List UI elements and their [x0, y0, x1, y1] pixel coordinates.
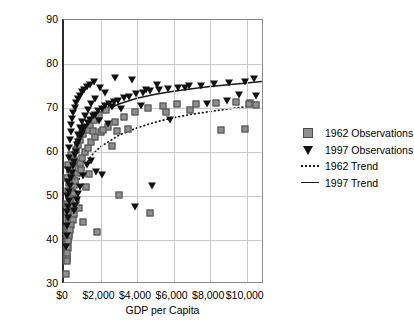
legend-solid-line-icon: [301, 182, 319, 183]
chart-legend: 1962 Observations1997 Observations1962 T…: [300, 126, 412, 192]
x-axis-ticks: $0$2,000$4,000$6,000$8,000$10,000: [0, 289, 414, 305]
data-point-1997: [67, 121, 75, 128]
legend-item-label: 1997 Trend: [325, 177, 378, 189]
data-point-1962: [64, 250, 71, 257]
x-tick-label: $2,000: [82, 289, 114, 301]
plot-area: [62, 19, 263, 283]
data-point-1997: [83, 162, 91, 169]
data-point-1997: [203, 101, 211, 108]
data-point-1997: [181, 85, 189, 92]
data-point-1962: [108, 142, 115, 149]
data-point-1962: [232, 99, 239, 106]
data-point-1962: [63, 270, 70, 277]
data-point-1997: [241, 78, 249, 85]
y-tick-label: 40: [32, 234, 58, 244]
y-tick-label: 50: [32, 190, 58, 200]
data-point-1997: [92, 168, 100, 175]
data-point-1997: [166, 116, 174, 123]
gridline-vertical: [101, 20, 102, 282]
data-point-1997: [128, 77, 136, 84]
legend-item[interactable]: 1997 Trend: [300, 176, 412, 190]
legend-triangle-icon: [303, 146, 313, 155]
gridline-vertical: [247, 20, 248, 282]
data-point-1997: [131, 204, 139, 211]
legend-key: [300, 160, 320, 172]
data-point-1997: [108, 104, 116, 111]
data-point-1962: [241, 125, 248, 132]
data-point-1962: [252, 102, 259, 109]
y-axis-ticks: 30405060708090: [30, 0, 58, 336]
legend-item-label: 1997 Observations: [325, 144, 413, 156]
data-point-1997: [63, 232, 71, 239]
gridline-horizontal: [64, 240, 262, 241]
data-point-1997: [197, 82, 205, 89]
legend-square-icon: [303, 128, 313, 138]
data-point-1997: [252, 92, 260, 99]
data-point-1997: [164, 85, 172, 92]
data-point-1962: [146, 209, 153, 216]
data-point-1962: [63, 258, 70, 265]
data-point-1962: [121, 114, 128, 121]
data-point-1962: [115, 192, 122, 199]
data-point-1997: [235, 91, 243, 98]
x-tick-label: $10,000: [226, 289, 264, 301]
data-point-1997: [210, 81, 218, 88]
data-point-1962: [245, 100, 252, 107]
data-point-1962: [187, 106, 194, 113]
data-point-1962: [100, 127, 107, 134]
legend-key: [300, 144, 320, 156]
data-point-1962: [218, 127, 225, 134]
data-point-1962: [80, 218, 87, 225]
legend-item[interactable]: 1962 Observations: [300, 126, 412, 140]
x-tick-label: $8,000: [192, 289, 224, 301]
gridline-vertical: [174, 20, 175, 282]
x-tick-label: $0: [56, 289, 68, 301]
legend-item[interactable]: 1962 Trend: [300, 159, 412, 173]
data-point-1997: [142, 86, 150, 93]
y-tick-label: 80: [32, 58, 58, 68]
data-point-1997: [225, 80, 233, 87]
data-point-1962: [212, 99, 219, 106]
data-point-1997: [70, 208, 78, 215]
legend-item-label: 1962 Observations: [325, 127, 413, 139]
data-point-1997: [250, 76, 258, 83]
legend-key: [300, 177, 320, 189]
data-point-1997: [62, 243, 70, 250]
legend-item[interactable]: 1997 Observations: [300, 143, 412, 157]
y-tick-label: 90: [32, 14, 58, 24]
gridline-horizontal: [64, 64, 262, 65]
data-point-1997: [79, 173, 87, 180]
data-point-1997: [104, 121, 112, 128]
data-point-1997: [223, 97, 231, 104]
data-point-1997: [74, 131, 82, 138]
data-point-1962: [90, 127, 97, 134]
gridline-horizontal: [64, 196, 262, 197]
data-point-1962: [112, 119, 119, 126]
data-point-1962: [163, 108, 170, 115]
y-tick-label: 70: [32, 102, 58, 112]
data-point-1962: [113, 128, 120, 135]
data-point-1997: [148, 183, 156, 190]
x-tick-label: $6,000: [156, 289, 188, 301]
data-point-1962: [174, 101, 181, 108]
data-point-1962: [124, 126, 131, 133]
gridline-horizontal: [64, 152, 262, 153]
data-point-1962: [132, 109, 139, 116]
data-point-1997: [117, 105, 125, 112]
data-point-1997: [95, 118, 103, 125]
legend-key: [300, 127, 320, 139]
chart-root: 30405060708090 Life Expectancy at Birth …: [0, 0, 414, 336]
legend-item-label: 1962 Trend: [325, 160, 378, 172]
data-point-1997: [153, 82, 161, 89]
gridline-vertical: [210, 20, 211, 282]
y-tick-label: 30: [32, 278, 58, 288]
x-axis-title: GDP per Capita: [62, 304, 263, 316]
data-point-1997: [111, 75, 119, 82]
data-point-1997: [63, 222, 71, 229]
data-point-1997: [96, 85, 104, 92]
data-point-1962: [145, 105, 152, 112]
x-tick-label: $4,000: [119, 289, 151, 301]
data-point-1997: [137, 102, 145, 109]
legend-dotted-line-icon: [301, 165, 319, 167]
data-point-1962: [93, 229, 100, 236]
